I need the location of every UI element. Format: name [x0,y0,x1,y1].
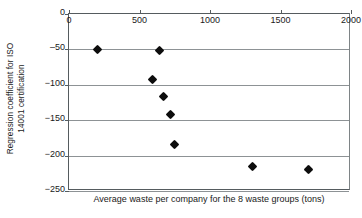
data-point [170,139,180,149]
x-axis-tick-label: 0 [66,15,71,25]
y-axis-tick-label: −250 [35,185,65,194]
data-point [304,164,314,174]
data-point [154,46,164,56]
y-axis-title-line-2: 14001 certification [17,42,28,154]
y-axis-tick-label: −200 [35,150,65,159]
y-axis-title: Regression coefficient for ISO 14001 cer… [0,0,34,196]
x-axis-tick-mark [140,10,141,14]
y-axis-tick-mark [65,85,69,86]
gridline-y [69,49,349,50]
y-axis-title-text: Regression coefficient for ISO 14001 cer… [7,42,28,154]
x-axis-tick-label: 1000 [200,15,220,25]
y-axis-title-line-1: Regression coefficient for ISO [7,42,18,154]
x-axis-tick-mark [281,10,282,14]
y-axis-tick-labels: 0‒50−100−150−200−250 [32,0,65,218]
data-point [92,44,102,54]
x-axis-tick-mark [351,10,352,14]
data-point [166,110,176,120]
x-axis-tick-label: 1500 [270,15,290,25]
x-axis-tick-mark [210,10,211,14]
x-axis-tick-label: 500 [132,15,147,25]
y-axis-tick-label: −100 [35,79,65,88]
gridline-y [69,191,349,192]
gridline-y [69,120,349,121]
data-point [159,91,169,101]
gridline-y [69,156,349,157]
x-axis-tick-label: 2000 [341,15,361,25]
gridline-y [69,85,349,86]
y-axis-tick-label: 0 [35,8,65,17]
scatter-plot-figure: Regression coefficient for ISO 14001 cer… [0,0,362,218]
plot-area: 0500100015002000 [68,13,350,190]
x-axis-tick-mark [69,10,70,14]
y-axis-tick-mark [65,191,69,192]
data-point [147,75,157,85]
y-axis-tick-label: −150 [35,114,65,123]
y-axis-tick-label: ‒50 [35,43,65,52]
y-axis-tick-mark [65,156,69,157]
data-point [247,162,257,172]
y-axis-tick-mark [65,49,69,50]
x-axis-title: Average waste per company for the 8 wast… [68,194,350,205]
y-axis-tick-mark [65,120,69,121]
